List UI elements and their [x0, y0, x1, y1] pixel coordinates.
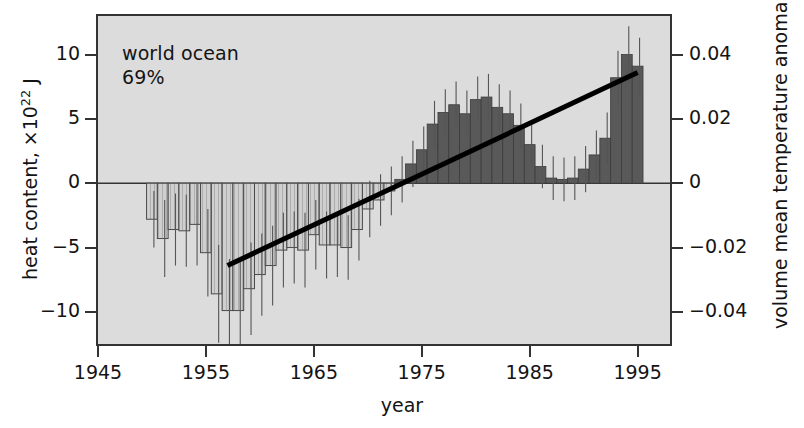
bar	[190, 183, 201, 224]
bar	[611, 78, 622, 183]
y-axis-tick-mark	[85, 311, 96, 313]
y2-axis-tick-label: 0	[689, 170, 769, 192]
bar	[492, 107, 503, 183]
y-axis-tick-mark	[85, 54, 96, 56]
bar	[319, 183, 330, 245]
y-axis-tick-label: 10	[0, 42, 80, 64]
plot-area: world ocean 69%	[96, 14, 672, 346]
bar	[632, 66, 643, 183]
y2-axis-tick-label: 0.04	[689, 42, 769, 64]
bar	[600, 138, 611, 183]
y2-axis-tick-mark	[672, 54, 683, 56]
y-axis-tick-label: 0	[0, 170, 80, 192]
y2-axis-title: volume mean temperature anomaly, °C	[769, 29, 791, 329]
annotation-line-2: 69%	[122, 66, 239, 90]
y-axis-title-exponent: 22	[18, 90, 33, 106]
x-axis-tick-label: 1975	[377, 361, 467, 383]
bar	[470, 100, 481, 184]
y-axis-tick-mark	[85, 118, 96, 120]
y2-axis-tick-mark	[672, 182, 683, 184]
y-axis-title-suffix: J	[19, 78, 41, 90]
x-axis-tick-mark	[97, 346, 99, 357]
bar	[557, 179, 568, 183]
figure: heat content, ×1022 J volume mean temper…	[0, 0, 804, 428]
bar	[524, 145, 535, 184]
bar	[546, 178, 557, 183]
x-axis-tick-mark	[529, 346, 531, 357]
x-axis-tick-mark	[205, 346, 207, 357]
bar	[168, 183, 179, 229]
y2-axis-tick-label: −0.04	[689, 299, 769, 321]
bar	[535, 166, 546, 183]
bar	[222, 183, 233, 310]
bar	[157, 183, 168, 238]
bar	[211, 183, 222, 294]
bar	[589, 155, 600, 183]
x-axis-tick-mark	[421, 346, 423, 357]
chart-annotation: world ocean 69%	[122, 42, 239, 90]
bar	[265, 183, 276, 265]
y2-axis-tick-mark	[672, 311, 683, 313]
y2-axis-tick-mark	[672, 118, 683, 120]
x-axis-tick-label: 1985	[485, 361, 575, 383]
y-axis-tick-mark	[85, 247, 96, 249]
y2-axis-tick-mark	[672, 247, 683, 249]
y-axis-tick-label: 5	[0, 106, 80, 128]
x-axis-title: year	[0, 394, 804, 416]
y-axis-tick-label: −5	[0, 235, 80, 257]
bar	[438, 112, 449, 183]
bar	[503, 114, 514, 183]
bar	[244, 183, 255, 288]
y2-axis-tick-label: −0.02	[689, 235, 769, 257]
bar	[298, 183, 309, 250]
x-axis-tick-mark	[313, 346, 315, 357]
trend-line	[228, 73, 638, 266]
x-axis-tick-label: 1945	[53, 361, 143, 383]
bar	[341, 183, 352, 247]
annotation-line-1: world ocean	[122, 42, 239, 66]
bar	[254, 183, 265, 274]
bar	[514, 125, 525, 183]
y2-axis-tick-label: 0.02	[689, 106, 769, 128]
x-axis-tick-label: 1965	[269, 361, 359, 383]
bar	[449, 105, 460, 183]
x-axis-tick-label: 1995	[593, 361, 683, 383]
x-axis-tick-mark	[637, 346, 639, 357]
y-axis-tick-label: −10	[0, 299, 80, 321]
bar	[179, 183, 190, 231]
bar	[578, 169, 589, 183]
bar	[460, 114, 471, 183]
y-axis-tick-mark	[85, 182, 96, 184]
bar	[427, 124, 438, 183]
bar	[147, 183, 158, 219]
bar	[233, 183, 244, 310]
x-axis-tick-label: 1955	[161, 361, 251, 383]
bar	[201, 183, 212, 252]
bar	[567, 178, 578, 183]
